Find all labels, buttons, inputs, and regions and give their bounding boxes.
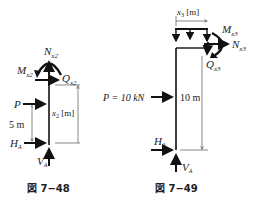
label-ha-49: HA [153, 135, 166, 148]
caption-7-48: 図 7−48 [27, 183, 70, 194]
figure-7-48: Nx2 Mx2 Qx2 x2 [m] P 5 m HA VA 図 7−48 [9, 45, 80, 194]
label-p-48: P [13, 98, 21, 110]
moment-arrowhead-48 [34, 70, 41, 78]
label-ha-48: HA [9, 137, 22, 150]
label-n-48: Nx2 [43, 45, 58, 60]
label-m-48: Mx2 [16, 64, 33, 79]
label-x3: x3 [m] [176, 7, 199, 18]
diagram-canvas: Nx2 Mx2 Qx2 x2 [m] P 5 m HA VA 図 7−48 [0, 0, 258, 206]
label-10m: 10 m [180, 92, 201, 103]
figure-7-49: x3 [m] Mx3 Nx3 Qx3 10 m P = 10 kN HA VA … [102, 7, 246, 194]
label-p-49: P = 10 kN [102, 92, 146, 103]
label-q-49: Qx3 [206, 58, 221, 73]
label-n-49: Nx3 [231, 38, 246, 53]
label-x2: x2 [m] [51, 108, 74, 119]
caption-7-49: 図 7−49 [155, 183, 198, 194]
label-va-48: VA [37, 155, 48, 168]
q-force-arrow-49 [207, 42, 208, 54]
label-5m: 5 m [9, 119, 25, 130]
label-m-49: Mx3 [221, 23, 238, 38]
label-va-49: VA [182, 161, 193, 174]
